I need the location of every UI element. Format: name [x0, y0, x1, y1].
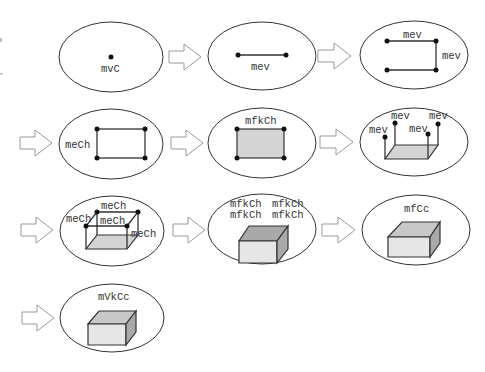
arrow-4 [171, 130, 203, 156]
arrow-1 [169, 44, 201, 70]
step-5-mfkCh: mfkCh [208, 108, 316, 178]
label-mev-3: mev [409, 123, 428, 135]
label-mfCc: mfCc [404, 203, 429, 215]
label-mev-1: mev [369, 124, 388, 136]
label-mev: mev [251, 61, 270, 73]
label-mev-2: mev [391, 110, 410, 122]
label-meCh-top: meCh [101, 200, 126, 212]
step-6-mev-x4: mev mev mev mev [360, 108, 468, 176]
step-9-mfCc: mfCc [362, 195, 470, 265]
label-mev-4: mev [429, 110, 448, 122]
arrow-9 [22, 305, 54, 331]
label-meCh-right: meCh [131, 228, 156, 240]
step-4-meCh: meCh [59, 109, 163, 179]
label-mVkCc: mVkCc [98, 291, 130, 303]
scan-artifact [0, 73, 3, 75]
step-2-mev: mev [208, 22, 316, 90]
arrow-8 [322, 217, 355, 243]
label-meCh-middle: meCh [100, 215, 125, 227]
label-mfkCh-3: mfkCh [230, 209, 262, 221]
arrow-5 [320, 129, 353, 155]
euler-operator-diagram: mvC mev mev mev meCh mfkCh [0, 0, 485, 372]
arrow-3 [20, 130, 52, 156]
step-10-mVkCc: mVkCc [60, 284, 164, 352]
step-8-mfkCh-x4: mfkCh mfkCh mfkCh mfkCh [208, 194, 316, 264]
arrow-2 [318, 43, 351, 69]
step-1-mvC: mvC [59, 22, 163, 92]
label-mfkCh-4: mfkCh [272, 209, 304, 221]
arrow-6 [21, 217, 53, 243]
scan-artifact [0, 38, 2, 42]
step-3-mev-mev: mev mev [360, 21, 468, 89]
label-mev-right: mev [442, 50, 461, 62]
label-mvC: mvC [101, 63, 120, 75]
arrow-7 [173, 217, 205, 243]
label-mev-top: mev [403, 29, 422, 41]
step-7-meCh-x4: meCh meCh meCh meCh [60, 196, 164, 266]
label-meCh-left: meCh [66, 213, 91, 225]
label-meCh: meCh [65, 139, 90, 151]
label-mfkCh: mfkCh [245, 115, 277, 127]
